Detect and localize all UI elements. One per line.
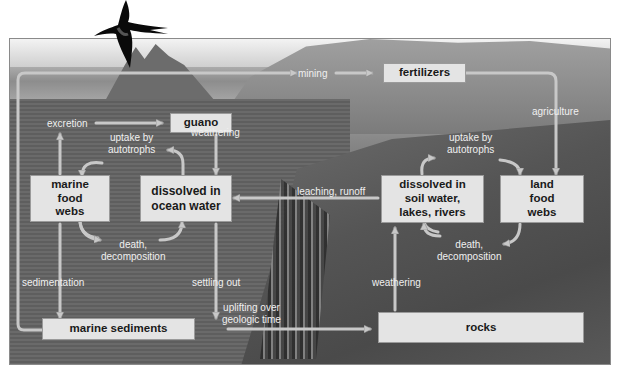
label-leaching-runoff: leaching, runoff <box>297 186 365 198</box>
label-settling-out: settling out <box>192 277 240 289</box>
label-uptake-marine: uptake by autotrophs <box>108 132 155 155</box>
label-mining: mining <box>298 68 327 80</box>
label-uptake-land: uptake by autotrophs <box>447 132 494 155</box>
label-death-land: death, decomposition <box>437 239 501 262</box>
node-marine-food-webs: marine food webs <box>30 175 110 222</box>
label-agriculture: agriculture <box>532 106 579 118</box>
label-weathering-rocks: weathering <box>372 277 421 289</box>
node-dissolved-soil: dissolved in soil water, lakes, rivers <box>381 175 484 223</box>
node-marine-sediments: marine sediments <box>42 318 195 340</box>
label-death-marine: death, decomposition <box>101 239 165 262</box>
node-fertilizers: fertilizers <box>383 63 466 83</box>
frigatebird-icon <box>90 0 170 70</box>
label-uplifting: uplifting over geologic time <box>222 302 281 325</box>
node-dissolved-ocean: dissolved in ocean water <box>140 175 232 222</box>
label-weathering-guano: weathering <box>191 127 240 139</box>
node-rocks: rocks <box>378 312 584 343</box>
node-land-food-webs: land food webs <box>500 175 584 223</box>
label-excretion: excretion <box>47 118 88 130</box>
label-sedimentation: sedimentation <box>22 277 84 289</box>
